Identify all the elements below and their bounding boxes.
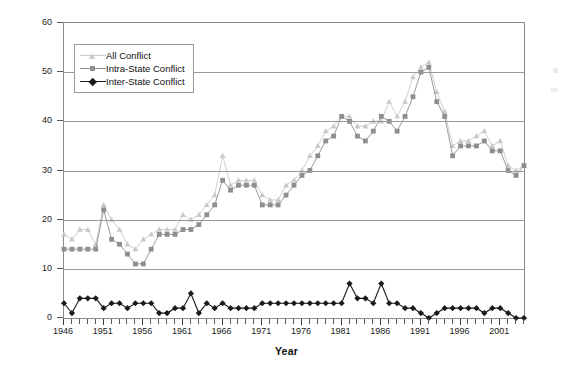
x-axis-tick-label: 1946 xyxy=(43,326,83,337)
data-point-diamond xyxy=(362,295,368,301)
data-point-square xyxy=(395,129,400,134)
data-point-square xyxy=(458,144,463,149)
data-point-square xyxy=(133,262,138,267)
data-point-diamond xyxy=(346,280,352,286)
data-point-triangle xyxy=(489,143,495,148)
data-point-diamond xyxy=(307,300,313,306)
x-axis-tick xyxy=(475,319,476,324)
x-axis-tick xyxy=(245,319,246,324)
x-axis-tick xyxy=(444,319,445,324)
x-axis-tick xyxy=(206,319,207,324)
data-point-square xyxy=(379,114,384,119)
data-point-triangle xyxy=(148,231,154,236)
legend-label: All Conflict xyxy=(106,49,151,62)
data-point-square xyxy=(450,153,455,158)
y-axis-tick-label: 10 xyxy=(12,264,52,273)
data-point-square xyxy=(236,183,241,188)
series-inter-state-conflict xyxy=(61,280,527,321)
x-axis-tick xyxy=(103,319,104,325)
x-axis-tick xyxy=(198,319,199,324)
data-point-square xyxy=(268,203,273,208)
data-point-diamond xyxy=(465,305,471,311)
data-point-triangle xyxy=(481,128,487,133)
data-point-diamond xyxy=(481,310,487,316)
x-axis-tick xyxy=(190,319,191,324)
chart-figure: Number of Conflicts 0102030405060 194619… xyxy=(0,0,573,376)
data-point-triangle xyxy=(220,153,226,158)
data-point-triangle xyxy=(426,59,432,64)
x-axis-tick xyxy=(134,319,135,324)
data-point-triangle xyxy=(283,182,289,187)
data-point-diamond xyxy=(418,310,424,316)
data-point-square xyxy=(125,252,130,257)
data-point-diamond xyxy=(212,305,218,311)
x-axis-tick xyxy=(269,319,270,324)
data-point-square xyxy=(363,139,368,144)
data-point-square xyxy=(212,203,217,208)
data-point-square xyxy=(196,222,201,227)
data-point-diamond xyxy=(283,300,289,306)
legend-label: Inter-State Conflict xyxy=(106,75,185,88)
data-point-square xyxy=(117,242,122,247)
data-point-triangle xyxy=(140,236,146,241)
x-axis-tick xyxy=(214,319,215,324)
x-axis-tick-label: 1986 xyxy=(360,326,400,337)
data-point-square xyxy=(260,203,265,208)
x-axis-tick xyxy=(126,319,127,324)
data-point-diamond xyxy=(489,305,495,311)
x-axis-tick xyxy=(325,319,326,324)
gridline xyxy=(64,220,524,221)
data-point-square xyxy=(85,247,90,252)
x-axis-tick-label: 1966 xyxy=(202,326,242,337)
x-axis-tick xyxy=(293,319,294,324)
data-point-square xyxy=(244,183,249,188)
data-point-diamond xyxy=(370,300,376,306)
x-axis-tick xyxy=(301,319,302,325)
y-axis-tick-label: 30 xyxy=(12,166,52,175)
data-point-diamond xyxy=(172,305,178,311)
data-point-triangle xyxy=(474,133,480,138)
data-point-diamond xyxy=(267,300,273,306)
data-point-triangle xyxy=(497,138,503,143)
data-point-triangle xyxy=(180,212,186,217)
data-point-diamond xyxy=(378,280,384,286)
x-axis-tick xyxy=(261,319,262,325)
x-axis-tick xyxy=(499,319,500,325)
x-axis-tick xyxy=(412,319,413,324)
data-point-square xyxy=(474,144,479,149)
x-axis-tick xyxy=(436,319,437,324)
x-axis-tick xyxy=(166,319,167,324)
data-point-square xyxy=(77,247,82,252)
data-point-diamond xyxy=(291,300,297,306)
data-point-square xyxy=(228,188,233,193)
x-axis-tick xyxy=(230,319,231,324)
data-point-triangle xyxy=(323,128,329,133)
x-axis-tick xyxy=(317,319,318,324)
x-axis-tick xyxy=(388,319,389,324)
x-axis-tick xyxy=(142,319,143,325)
data-point-diamond xyxy=(77,295,83,301)
data-point-square xyxy=(522,163,527,168)
data-point-diamond xyxy=(394,300,400,306)
gridline xyxy=(64,171,524,172)
data-point-diamond xyxy=(386,300,392,306)
x-axis-tick-label: 1981 xyxy=(321,326,361,337)
scan-artifact-2 xyxy=(551,88,558,92)
data-point-square xyxy=(292,183,297,188)
x-axis-tick xyxy=(467,319,468,324)
x-axis-tick xyxy=(491,319,492,324)
x-axis-labels: 1946195119561961196619711976198119861991… xyxy=(63,326,525,340)
x-axis-tick xyxy=(380,319,381,325)
x-axis-tick xyxy=(507,319,508,324)
x-axis-tick xyxy=(111,319,112,324)
data-point-triangle xyxy=(101,202,107,207)
data-point-triangle xyxy=(402,99,408,104)
data-point-diamond xyxy=(450,305,456,311)
gridline xyxy=(64,269,524,270)
data-point-diamond xyxy=(140,300,146,306)
data-point-diamond xyxy=(442,305,448,311)
data-point-diamond xyxy=(434,310,440,316)
x-axis-tick-label: 1961 xyxy=(162,326,202,337)
data-point-triangle xyxy=(259,192,265,197)
data-point-diamond xyxy=(251,305,257,311)
